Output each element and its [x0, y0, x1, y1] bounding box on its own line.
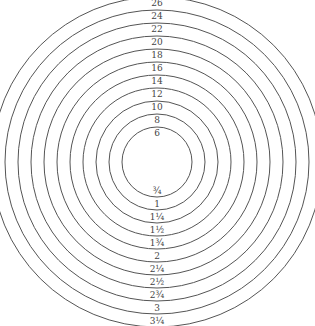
ring-bottom-label: 3: [154, 303, 160, 313]
ring-top-label: 18: [151, 50, 163, 60]
ring-bottom-label: 1¾: [150, 238, 165, 248]
ring-top-label: 26: [151, 0, 163, 8]
ring-top-label: 24: [151, 11, 163, 21]
ring-top-label: 8: [154, 115, 160, 125]
concentric-ring-diagram: 6¾81101¼121½141¾162182¼202½222¾243263¼: [0, 0, 315, 326]
ring-bottom-label: ¾: [153, 186, 162, 196]
ring-top-label: 14: [151, 76, 163, 86]
ring-top-label: 16: [151, 63, 163, 73]
ring-bottom-label: 2½: [150, 277, 165, 287]
ring-bottom-label: 2: [154, 251, 160, 261]
ring-bottom-label: 2¼: [150, 264, 165, 274]
ring-top-label: 12: [151, 89, 162, 99]
ring-bottom-label: 1¼: [150, 212, 165, 222]
ring-top-label: 10: [151, 102, 163, 112]
ring-top-label: 20: [151, 37, 163, 47]
ring-bottom-label: 1½: [150, 225, 165, 235]
ring-top-label: 6: [154, 128, 160, 138]
ring-bottom-label: 2¾: [150, 290, 165, 300]
ring-bottom-label: 3¼: [150, 316, 165, 326]
ring-bottom-label: 1: [154, 199, 160, 209]
ring-top-label: 22: [151, 24, 162, 34]
